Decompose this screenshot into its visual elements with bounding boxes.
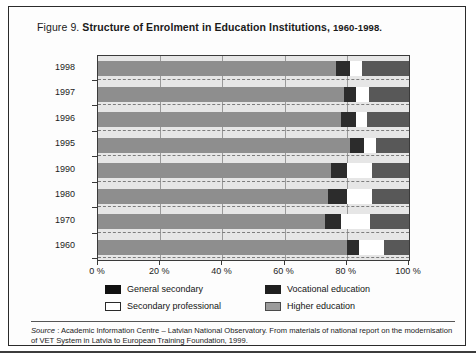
bar-segment-general <box>98 189 328 204</box>
x-axis-label-40: 40 % <box>211 266 232 276</box>
bar-segment-general <box>98 138 350 153</box>
source-note: Source : Academic Information Centre – L… <box>31 326 455 347</box>
source-text: : Academic Information Centre – Latvian … <box>31 326 452 345</box>
y-axis-label-1960: 1960 <box>55 241 75 250</box>
stacked-bar <box>98 214 409 229</box>
bar-segment-vocational <box>328 189 347 204</box>
bar-segment-general <box>98 214 325 229</box>
legend-item-general[interactable]: General secondary <box>105 284 203 294</box>
chart-bar-row <box>98 133 409 159</box>
y-axis-label-1970: 1970 <box>55 216 75 225</box>
bar-segment-general <box>98 61 336 76</box>
legend-swatch-secprof <box>105 302 121 311</box>
x-axis-tick <box>408 261 409 265</box>
legend-label: Secondary professional <box>127 301 221 311</box>
stacked-bar <box>98 87 409 102</box>
bar-segment-secprof <box>359 240 384 255</box>
x-axis-tick <box>284 261 285 265</box>
figure-frame: Figure 9.Structure of Enrolment in Educa… <box>8 6 466 346</box>
figure-title-years: 1960-1998. <box>333 22 382 33</box>
y-axis-tick <box>92 207 97 208</box>
stacked-bar <box>98 189 409 204</box>
row-dashed-separator <box>98 257 409 258</box>
chart-bar-row <box>98 235 409 261</box>
page-title: Figure 9.Structure of Enrolment in Educa… <box>37 21 382 33</box>
y-axis-tick <box>92 80 97 81</box>
legend-item-secprof[interactable]: Secondary professional <box>105 301 221 311</box>
bar-segment-general <box>98 240 347 255</box>
row-dashed-separator <box>98 206 409 207</box>
bar-segment-general <box>98 87 344 102</box>
x-axis-label-60: 60 % <box>273 266 294 276</box>
chart-legend: General secondaryVocational educationSec… <box>105 284 405 318</box>
bar-segment-secprof <box>347 163 372 178</box>
bar-segment-higher <box>372 163 409 178</box>
row-dashed-separator <box>98 104 409 105</box>
y-axis-label-1980: 1980 <box>55 190 75 199</box>
row-dashed-separator <box>98 130 409 131</box>
x-axis-label-20: 20 % <box>149 266 170 276</box>
chart-bar-row <box>98 107 409 133</box>
bar-segment-vocational <box>350 138 364 153</box>
legend-swatch-general <box>105 285 121 294</box>
bar-segment-higher <box>372 189 409 204</box>
x-axis: 0 %20 %40 %60 %80 %100 % <box>97 261 408 277</box>
bar-segment-vocational <box>341 112 357 127</box>
y-axis-label-1996: 1996 <box>55 114 75 123</box>
row-dashed-separator <box>98 155 409 156</box>
bar-segment-secprof <box>364 138 376 153</box>
bar-segment-secprof <box>350 61 362 76</box>
bar-segment-general <box>98 163 331 178</box>
y-axis-label-1998: 1998 <box>55 63 75 72</box>
x-axis-tick <box>97 261 98 265</box>
y-axis-label-1997: 1997 <box>55 88 75 97</box>
stacked-bar <box>98 138 409 153</box>
stacked-bar <box>98 61 409 76</box>
chart-plot-wrapper: 0 %20 %40 %60 %80 %100 % 199819971996199… <box>89 55 409 263</box>
y-axis-tick <box>92 156 97 157</box>
figure-title-text: Structure of Enrolment in Education Inst… <box>79 21 330 33</box>
bar-segment-secprof <box>341 214 371 229</box>
legend-label: Vocational education <box>287 284 370 294</box>
y-axis-tick <box>92 182 97 183</box>
bar-segment-vocational <box>347 240 359 255</box>
bar-segment-vocational <box>331 163 347 178</box>
source-divider <box>31 321 455 322</box>
legend-label: Higher education <box>287 301 355 311</box>
chart-bar-row <box>98 184 409 210</box>
legend-swatch-higher <box>265 302 281 311</box>
page-bottom-rule <box>0 351 476 353</box>
bar-segment-higher <box>369 87 409 102</box>
row-dashed-separator <box>98 232 409 233</box>
y-axis-tick <box>92 233 97 234</box>
bar-segment-general <box>98 112 341 127</box>
x-axis-tick <box>346 261 347 265</box>
stacked-bar <box>98 240 409 255</box>
x-axis-label-0: 0 % <box>89 266 105 276</box>
legend-swatch-vocational <box>265 285 281 294</box>
legend-item-vocational[interactable]: Vocational education <box>265 284 370 294</box>
x-axis-tick <box>221 261 222 265</box>
bar-segment-higher <box>362 61 409 76</box>
x-axis-label-100: 100 % <box>395 266 421 276</box>
chart-bar-row <box>98 56 409 82</box>
row-dashed-separator <box>98 181 409 182</box>
x-axis-label-80: 80 % <box>336 266 357 276</box>
y-axis-label-1990: 1990 <box>55 165 75 174</box>
y-axis-tick <box>92 131 97 132</box>
chart-plot-area <box>97 55 410 261</box>
bar-segment-secprof <box>356 112 367 127</box>
y-axis-tick <box>92 258 97 259</box>
bar-segment-higher <box>376 138 409 153</box>
bar-segment-vocational <box>336 61 350 76</box>
chart-bar-row <box>98 209 409 235</box>
row-dashed-separator <box>98 79 409 80</box>
stacked-bar <box>98 163 409 178</box>
y-axis-label-1995: 1995 <box>55 139 75 148</box>
bar-segment-vocational <box>325 214 341 229</box>
legend-item-higher[interactable]: Higher education <box>265 301 355 311</box>
stacked-bar <box>98 112 409 127</box>
source-word: Source <box>31 326 55 335</box>
legend-label: General secondary <box>127 284 203 294</box>
bar-segment-vocational <box>344 87 356 102</box>
